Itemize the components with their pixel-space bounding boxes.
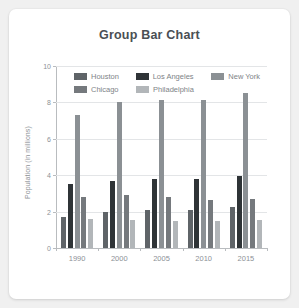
- x-tick-mark: [98, 248, 99, 251]
- legend-label: Chicago: [91, 85, 119, 94]
- x-tick-mark: [183, 248, 184, 251]
- x-tick-mark: [267, 248, 268, 251]
- bar-chicago-2015: [250, 199, 255, 248]
- x-axis-line: [56, 248, 267, 249]
- bar-philadelphia-2005: [173, 221, 178, 248]
- x-tick-label: 1990: [69, 254, 86, 263]
- x-tick-mark: [140, 248, 141, 251]
- bar-new-york-2005: [159, 100, 164, 249]
- y-tick-mark: [53, 175, 56, 176]
- bar-new-york-2015: [243, 93, 248, 248]
- y-tick-label: 6: [47, 135, 51, 142]
- y-tick-mark: [53, 66, 56, 67]
- legend-item-houston[interactable]: Houston: [74, 72, 136, 81]
- bar-houston-2010: [188, 210, 193, 248]
- bar-chicago-1990: [81, 197, 86, 248]
- x-tick-label: 2015: [238, 254, 255, 263]
- legend-item-new-york[interactable]: New York: [211, 72, 260, 81]
- legend-label: Philadelphia: [153, 85, 194, 94]
- bar-houston-2015: [230, 207, 235, 248]
- legend-label: Los Angeles: [153, 72, 194, 81]
- gridline: [56, 66, 267, 67]
- legend-label: Houston: [91, 72, 119, 81]
- plot-area: 0246810 19902000200520102015 HoustonLos …: [56, 66, 267, 248]
- bar-chicago-2000: [124, 195, 129, 248]
- y-tick-mark: [53, 139, 56, 140]
- x-tick-mark: [225, 248, 226, 251]
- bar-los-angeles-2015: [237, 176, 242, 248]
- legend-row: ChicagoPhiladelphia: [74, 83, 260, 96]
- bar-new-york-1990: [75, 115, 80, 248]
- y-tick-label: 8: [47, 99, 51, 106]
- y-tick-label: 10: [43, 63, 51, 70]
- bar-houston-2000: [103, 212, 108, 248]
- y-tick-mark: [53, 102, 56, 103]
- bar-houston-2005: [145, 210, 150, 248]
- bar-chicago-2005: [166, 197, 171, 248]
- x-tick-mark: [56, 248, 57, 251]
- y-tick-label: 2: [47, 208, 51, 215]
- legend-swatch-icon: [136, 86, 149, 93]
- y-tick-label: 0: [47, 245, 51, 252]
- chart-area: Population (in millions) 0246810 1990200…: [9, 9, 290, 299]
- x-tick-label: 2005: [153, 254, 170, 263]
- chart-card: Group Bar Chart Population (in millions)…: [9, 9, 290, 299]
- legend-swatch-icon: [136, 73, 149, 80]
- legend-item-chicago[interactable]: Chicago: [74, 85, 136, 94]
- x-tick-label: 2000: [111, 254, 128, 263]
- bar-los-angeles-2005: [152, 179, 157, 248]
- y-tick-label: 4: [47, 172, 51, 179]
- legend-item-philadelphia[interactable]: Philadelphia: [136, 85, 194, 94]
- chart-legend: HoustonLos AngelesNew York ChicagoPhilad…: [74, 70, 260, 96]
- x-tick-label: 2010: [195, 254, 212, 263]
- legend-label: New York: [228, 72, 260, 81]
- legend-swatch-icon: [74, 73, 87, 80]
- legend-item-los-angeles[interactable]: Los Angeles: [136, 72, 212, 81]
- legend-swatch-icon: [211, 73, 224, 80]
- y-axis-label: Population (in millions): [24, 93, 31, 233]
- bar-los-angeles-2010: [194, 179, 199, 248]
- bar-houston-1990: [61, 217, 66, 248]
- legend-swatch-icon: [74, 86, 87, 93]
- bar-los-angeles-1990: [68, 184, 73, 248]
- bar-los-angeles-2000: [110, 181, 115, 248]
- bar-philadelphia-1990: [88, 219, 93, 248]
- bar-chicago-2010: [208, 200, 213, 248]
- bar-new-york-2010: [201, 100, 206, 248]
- bar-philadelphia-2000: [130, 220, 135, 248]
- y-tick-mark: [53, 212, 56, 213]
- bar-new-york-2000: [117, 102, 122, 248]
- y-axis-line: [56, 66, 57, 248]
- bar-philadelphia-2010: [215, 221, 220, 248]
- legend-row: HoustonLos AngelesNew York: [74, 70, 260, 83]
- bar-philadelphia-2015: [257, 220, 262, 248]
